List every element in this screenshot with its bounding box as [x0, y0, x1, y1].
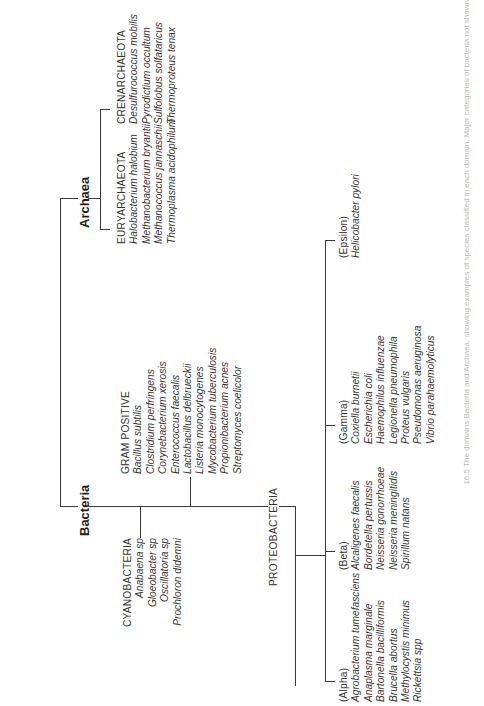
species-name: Oscillatoria sp — [159, 538, 171, 658]
species-name: Methanococcus jannaschii — [153, 119, 165, 244]
species-name: Rickettsia spp — [412, 573, 424, 702]
species-name: Thermoproteus tenax — [166, 14, 178, 124]
species-name: Methanobacterium bryantii — [141, 119, 153, 244]
species-name: Spirillum natans — [400, 467, 412, 570]
proteobacteria-stem-line — [295, 506, 296, 556]
species-name: Agrobacterium tumefasciens — [350, 573, 362, 702]
species-name: Proteus vulgaris — [400, 326, 412, 444]
group-crenarchaeota: CRENARCHAEOTA Desulfurococcus mobilis Py… — [116, 14, 178, 124]
domain-label-bacteria: Bacteria — [78, 483, 92, 538]
beta-tick — [325, 551, 335, 552]
species-name: Clostridium perfringens — [145, 348, 157, 474]
phylogenetic-tree-diagram: Bacteria Archaea CYANOBACTERIA Anabaena … — [0, 0, 484, 706]
group-heading: (Epsilon) — [338, 174, 350, 258]
species-name: Bacillus subtilis — [132, 348, 144, 474]
proteobacteria-subgroup-line — [325, 240, 326, 682]
species-name: Vibrio parahaemolyticus — [425, 326, 437, 444]
figure-caption: 16.5 The domains Bacteria and Archaea, s… — [462, 0, 471, 706]
species-name: Anaplasma marginale — [363, 573, 375, 702]
phylum-label-proteobacteria: PROTEOBACTERIA — [268, 486, 279, 588]
species-name: Bartonella bacilliformis — [375, 573, 387, 702]
species-name: Enterococcus faecalis — [170, 348, 182, 474]
species-name: Helicobacter pylori — [350, 174, 362, 258]
species-name: Neisseria gonorrhoeae — [375, 467, 387, 570]
root-branch-line — [60, 198, 61, 507]
species-name: Pyrodictium occultum — [141, 14, 153, 124]
group-alpha: (Alpha) Agrobacterium tumefasciens Anapl… — [338, 573, 425, 702]
species-name: Lactobacillus delbrueckii — [182, 348, 194, 474]
group-heading: (Gamma) — [338, 326, 350, 444]
group-heading: GRAM POSITIVE — [120, 348, 132, 474]
group-gram-positive: GRAM POSITIVE Bacillus subtilis Clostrid… — [120, 348, 244, 474]
group-beta: (Beta) Alcaligenes faecalis Bordetella p… — [338, 467, 412, 570]
species-name: Coxiella burnetii — [350, 326, 362, 444]
domain-label-archaea: Archaea — [78, 175, 92, 230]
species-name: Legionella pneumophila — [388, 326, 400, 444]
species-name: Methylocystis minimus — [400, 573, 412, 702]
species-name: Thermoplasma acidophilum — [166, 119, 178, 244]
species-name: Neisseria meningitidis — [388, 467, 400, 570]
group-heading: (Beta) — [338, 467, 350, 570]
crenarchaeota-tick — [100, 109, 110, 110]
species-name: Brucella abortus — [388, 573, 400, 702]
species-name: Gloeobacter sp — [147, 538, 159, 658]
group-cyanobacteria: CYANOBACTERIA Anabaena sp Gloeobacter sp… — [122, 538, 184, 658]
gamma-tick — [325, 425, 335, 426]
group-gamma: (Gamma) Coxiella burnetii Escherichia co… — [338, 326, 437, 444]
species-name: Mycobacterium tuberculosis — [207, 348, 219, 474]
gram-positive-branch-line — [190, 477, 191, 507]
cyanobacteria-branch-line — [140, 506, 141, 538]
species-name: Sulfolobus solfataricus — [153, 14, 165, 124]
species-name: Propionibacterium acnes — [219, 348, 231, 474]
species-name: Halobacterium halobium — [128, 119, 140, 244]
archaea-split-line — [100, 110, 101, 230]
group-heading: EURYARCHAEOTA — [116, 119, 128, 244]
species-name: Haemophilus influenzae — [375, 326, 387, 444]
species-name: Bordetella pertussis — [363, 467, 375, 570]
species-name: Escherichia coli — [363, 326, 375, 444]
species-name: Desulfurococcus mobilis — [128, 14, 140, 124]
euryarchaeota-tick — [100, 229, 110, 230]
archaea-trunk-line — [88, 198, 100, 199]
species-name: Pseudomonas aeruginosa — [412, 326, 424, 444]
group-heading: CRENARCHAEOTA — [116, 14, 128, 124]
proteobacteria-crossbar — [295, 556, 296, 686]
species-name: Anabaena sp — [134, 538, 146, 658]
species-name: Prochloron didemni — [172, 538, 184, 658]
group-euryarchaeota: EURYARCHAEOTA Halobacterium halobium Met… — [116, 119, 178, 244]
epsilon-tick — [325, 240, 335, 241]
species-name: Alcaligenes faecalis — [350, 467, 362, 570]
bacteria-trunk-line — [88, 506, 296, 507]
group-epsilon: (Epsilon) Helicobacter pylori — [338, 174, 363, 258]
species-name: Streptomyces coelicolor — [232, 348, 244, 474]
group-heading: (Alpha) — [338, 573, 350, 702]
group-heading: CYANOBACTERIA — [122, 538, 134, 658]
alpha-tick — [325, 681, 335, 682]
species-name: Listeria monocytogenes — [194, 348, 206, 474]
proteobacteria-connector — [295, 555, 325, 556]
species-name: Corynebacterium xerosis — [157, 348, 169, 474]
